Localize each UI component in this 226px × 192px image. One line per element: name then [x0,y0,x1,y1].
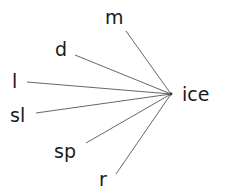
center-label-ice: ice [182,83,209,105]
word-fan-diagram: m d l sl sp r ice [0,0,226,192]
hub-point [170,93,173,96]
connector-sl [36,94,171,113]
branch-label-l: l [12,70,17,92]
connector-r [116,94,171,174]
branch-label-r: r [99,168,107,190]
branch-label-sp: sp [54,140,76,162]
connector-l [27,82,171,94]
branch-label-m: m [105,6,124,28]
branch-label-d: d [55,38,67,60]
connector-sp [86,94,171,143]
branch-label-sl: sl [10,104,25,126]
